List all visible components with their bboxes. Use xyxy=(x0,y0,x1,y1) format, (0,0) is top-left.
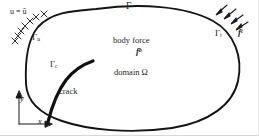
gamma-t-subscript: t xyxy=(220,32,222,38)
traction-force-label: ft xyxy=(238,28,243,37)
y-axis-label: y xyxy=(20,94,24,103)
body-force-symbol-label: fb xyxy=(136,47,142,56)
fracture-mechanics-figure: u = ū Γu Γ Γt ft body force fb domain Ω… xyxy=(0,0,259,136)
gamma-u-label: Γu xyxy=(32,33,40,43)
body-force-superscript: b xyxy=(139,47,142,53)
gamma-c-label: Γc xyxy=(50,60,57,69)
crack-label: crack xyxy=(59,87,77,96)
body-force-text-label: body force xyxy=(113,36,150,45)
x-axis-label: x xyxy=(38,117,42,126)
domain-label: domain Ω xyxy=(114,68,148,77)
gamma-t-label: Γt xyxy=(215,29,222,39)
gamma-u-subscript: u xyxy=(37,36,40,42)
gamma-c-subscript: c xyxy=(55,63,57,69)
prescribed-displacement-label: u = ū xyxy=(10,8,27,16)
gamma-boundary-label: Γ xyxy=(126,2,132,12)
traction-force-superscript: t xyxy=(241,28,243,34)
